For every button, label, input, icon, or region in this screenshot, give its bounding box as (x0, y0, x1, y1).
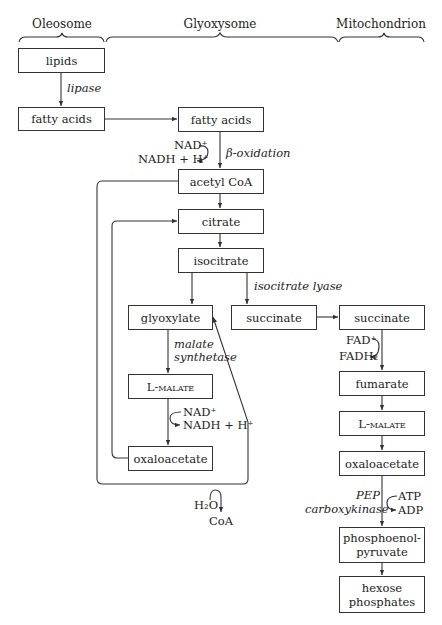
node-oxaloacetate-glyoxysome: oxaloacetate (128, 446, 213, 471)
enzyme-malate-synthetase-line2: synthetase (174, 351, 237, 364)
node-hexose-phosphates: hexose phosphates (339, 576, 425, 613)
enzyme-pep-carboxykinase-line1: PEP (356, 489, 380, 502)
node-l-malate-glyoxysome: L-malate (128, 374, 213, 399)
cofactor-nadh-beta: NADH + H⁺ (138, 153, 209, 166)
node-label: L-malate (358, 417, 405, 431)
enzyme-isocitrate-lyase: isocitrate lyase (254, 280, 342, 293)
enzyme-lipase: lipase (67, 82, 101, 95)
node-fumarate: fumarate (339, 371, 425, 396)
header-glyoxysome: Glyoxysome (184, 17, 257, 31)
node-phosphoenolpyruvate: phosphoenol- pyruvate (339, 527, 425, 563)
enzyme-pep-carboxykinase-line2: carboxykinase (305, 503, 389, 516)
cofactor-adp: ADP (398, 504, 423, 517)
node-l-malate-mitochondrion: L-malate (339, 411, 425, 436)
enzyme-beta-oxidation: β-oxidation (226, 147, 290, 160)
node-glyoxylate: glyoxylate (128, 305, 213, 330)
cofactor-fadh2: FADH₂ (339, 350, 378, 363)
node-succinate-glyoxysome: succinate (231, 305, 317, 330)
cofactor-atp: ATP (398, 490, 421, 503)
node-lipids: lipids (18, 48, 105, 73)
node-label-line2: phosphates (349, 595, 416, 609)
node-label-line2: pyruvate (356, 545, 408, 559)
cofactor-coa: CoA (209, 515, 233, 528)
cofactor-nadh-malate: NADH + H⁺ (183, 419, 254, 432)
cofactor-h2o: H₂O (194, 499, 218, 512)
node-succinate-mitochondrion: succinate (339, 305, 425, 330)
node-fatty-acids-glyoxysome: fatty acids (178, 107, 264, 132)
node-label-line1: hexose (362, 581, 402, 595)
cofactor-fad: FAD⁺ (346, 334, 377, 347)
node-oxaloacetate-mitochondrion: oxaloacetate (339, 451, 425, 476)
header-mitochondrion: Mitochondrion (336, 17, 426, 31)
node-acetyl-coa: acetyl CoA (178, 169, 264, 194)
node-isocitrate: isocitrate (178, 248, 264, 273)
node-label: L-malate (147, 380, 194, 394)
header-oleosome: Oleosome (32, 17, 92, 31)
node-citrate: citrate (178, 209, 264, 234)
cofactor-nad-beta: NAD⁺ (174, 139, 208, 152)
node-fatty-acids-oleosome: fatty acids (18, 107, 105, 131)
node-label-line1: phosphoenol- (343, 531, 421, 545)
